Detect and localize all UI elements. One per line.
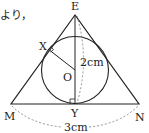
label-base: 3cm — [64, 122, 88, 133]
label-n: N — [135, 112, 145, 123]
label-e: E — [71, 1, 79, 12]
dashed-arc-base-left — [12, 106, 62, 127]
dashed-arc-base-right — [89, 106, 138, 127]
label-x: X — [39, 41, 47, 52]
label-height: 2cm — [80, 57, 104, 68]
label-o: O — [63, 72, 72, 83]
radius-ox — [48, 49, 75, 70]
label-y: Y — [71, 108, 78, 119]
label-m: M — [4, 111, 15, 122]
fragment-text: より， — [0, 10, 32, 21]
